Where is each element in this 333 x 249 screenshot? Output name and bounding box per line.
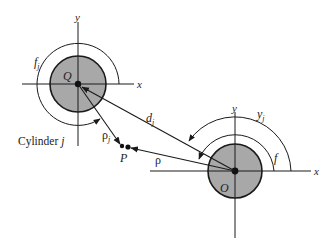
diagram-canvas: Q x y fj Cylinder j O x y f yj dj ρj ρ: [0, 0, 333, 249]
point-p: P: [119, 144, 131, 165]
cylinder-origin-x-label: x: [313, 165, 319, 177]
label-psi-j: yj: [256, 107, 265, 123]
label-o: O: [220, 181, 229, 195]
label-q: Q: [63, 69, 72, 83]
cylinder-j: Q x y fj Cylinder j: [18, 11, 142, 148]
label-p: P: [119, 151, 128, 165]
label-rho: ρ: [155, 153, 161, 167]
cylinder-origin: O x y f yj: [150, 102, 319, 238]
label-d-j: dj: [146, 111, 155, 127]
label-f: f: [274, 151, 279, 165]
cylinder-j-x-label: x: [136, 78, 142, 90]
point-p-left-dot: [120, 144, 124, 148]
cylinder-j-caption: Cylinder j: [18, 135, 64, 148]
point-p-dot: [125, 144, 130, 149]
label-rho-j: ρj: [102, 128, 111, 144]
cylinder-origin-y-label: y: [231, 102, 237, 114]
label-f-j: fj: [34, 55, 40, 71]
scattering-geometry-diagram: Q x y fj Cylinder j O x y f yj dj ρj ρ: [0, 0, 333, 249]
cylinder-j-y-label: y: [74, 11, 80, 23]
